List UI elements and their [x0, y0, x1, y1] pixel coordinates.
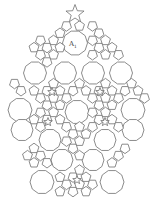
- label-subscript: 1: [74, 44, 77, 49]
- decagon-tile: [24, 62, 47, 84]
- decagon-tile: [121, 99, 145, 122]
- decagon-tile: [65, 101, 89, 124]
- pentagon-tile: [114, 51, 124, 60]
- decagon-tile: [94, 130, 116, 151]
- pentagon-tile: [88, 51, 98, 60]
- decagon-tile: [8, 99, 32, 122]
- pentagon-tile: [36, 123, 46, 132]
- decagon-tile: [51, 150, 73, 171]
- decagon-tile: [100, 171, 124, 194]
- decagon-tile: [82, 150, 104, 171]
- decagon-tile: [82, 62, 105, 84]
- top-star: [66, 5, 84, 22]
- decagon-tile: [39, 130, 61, 151]
- pentagon-tile: [16, 87, 26, 96]
- decagon-tile: [30, 171, 54, 194]
- pentagon-tile: [75, 21, 85, 30]
- decagon-tile: [11, 120, 33, 141]
- pentagon-tile: [68, 187, 78, 196]
- decagon-tile: [122, 120, 144, 141]
- pentagon-tile: [42, 159, 52, 168]
- tiling-diagram: A1: [0, 0, 153, 205]
